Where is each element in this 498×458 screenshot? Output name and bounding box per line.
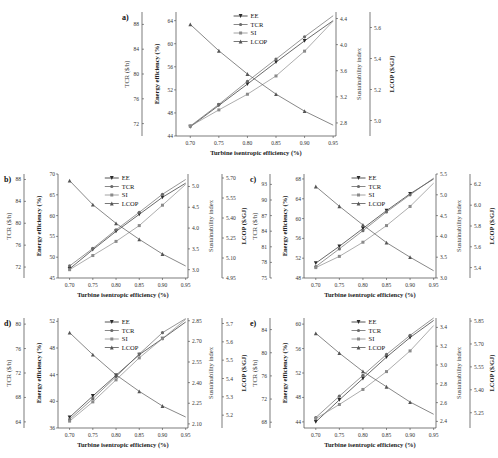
lcop-tick-label: 4.95 [226,275,236,281]
square-marker [314,266,317,269]
si-tick-label: 3.2 [440,343,447,349]
square-marker [138,356,141,359]
lcop-tick-label: 5.10 [226,255,236,261]
legend-label: SI [251,29,257,36]
lcop-tick-label: 5.85 [474,318,484,324]
ee-axis-title: Energy efficiency (%) [281,196,289,257]
x-tick-label: 0.90 [405,432,415,438]
circle-marker [217,103,220,106]
tcr-axis-title: TCR ($/h) [5,213,13,240]
square-marker [91,400,94,403]
legend-label: LCOP [122,344,139,351]
legend-label: TCR [369,183,382,190]
tcr-axis-title: TCR ($/h) [5,360,13,387]
si-tick-label: 5.5 [440,171,447,177]
tcr-tick-label: 88 [16,176,22,182]
ee-tick-label: 56 [296,346,302,352]
lcop-tick-label: 5.6 [226,339,233,345]
lcop-tick-label: 5.2 [226,412,233,418]
x-tick-label: 0.75 [88,432,98,438]
x-tick-label: 0.80 [111,432,121,438]
lcop-axis-title: LCOP ($/GJ) [488,207,496,244]
legend-label: LCOP [251,38,268,45]
square-marker [357,338,360,341]
square-marker [161,337,164,340]
lcop-tick-label: 5.55 [474,364,484,370]
x-tick-label: 0.85 [134,432,144,438]
x-tick-label: 0.70 [65,432,75,438]
legend-label: TCR [122,327,135,334]
square-marker [161,204,164,207]
ee-tick-label: 44 [296,419,302,425]
square-marker [246,93,249,96]
ee-tick-label: 50 [50,254,56,260]
square-marker [115,378,118,381]
si-tick-label: 4.5 [440,213,447,219]
square-marker [409,349,412,352]
circle-marker [91,247,94,250]
square-marker [338,255,341,258]
si-tick-label: 5.0 [440,192,447,198]
tcr-tick-label: 72 [16,370,22,376]
x-tick-label: 0.80 [243,140,253,146]
circle-marker [357,329,360,332]
si-tick-label: 4.4 [340,16,347,22]
si-tick-label: 2.10 [192,421,202,427]
lcop-tick-label: 5.2 [374,87,381,93]
triangle-up-marker [408,255,412,259]
tcr-tick-label: 72 [16,264,22,270]
panel-label: d) [4,319,11,328]
si-tick-label: 2.8 [440,381,447,387]
legend-label: LCOP [122,200,139,207]
si-tick-label: 4.0 [440,233,447,239]
si-tick-label: 2.40 [192,380,202,386]
ee-tick-label: 60 [50,213,56,219]
square-marker [303,50,306,53]
x-tick-label: 0.90 [158,282,168,288]
ee-tick-label: 44 [168,133,174,139]
x-tick-label: 0.75 [335,282,345,288]
si-tick-label: 3.4 [440,324,447,330]
si-tick-label: 2.8 [340,120,347,126]
x-tick-label: 0.95 [429,432,439,438]
tcr-axis-title: TCR ($/h) [251,360,259,387]
x-tick-label: 0.85 [134,282,144,288]
legend-label: TCR [122,183,135,190]
lcop-tick-label: 6.2 [474,181,481,187]
ee-tick-label: 44 [50,372,56,378]
si-tick-label: 4.5 [192,204,199,210]
circle-marker [385,353,388,356]
ee-tick-label: 68 [296,176,302,182]
si-tick-label: 3.6 [340,68,347,74]
panel-label: a) [122,13,129,22]
si-tick-label: 5.0 [192,183,199,189]
ee-tick-label: 60 [296,216,302,222]
ee-tick-label: 48 [50,345,56,351]
square-marker [217,108,220,111]
x-tick-label: 0.80 [111,282,121,288]
legend-label: LCOP [369,200,386,207]
x-tick-label: 0.75 [214,140,224,146]
tcr-axis-title: TCR ($/h) [123,61,131,88]
ee-tick-label: 36 [50,425,56,431]
tcr-tick-label: 80 [16,321,22,327]
circle-marker [110,329,113,332]
legend-label: EE [122,318,130,325]
tcr-tick-label: 80 [262,350,268,356]
lcop-tick-label: 5.5 [226,357,233,363]
legend: EETCRSILCOP [105,174,139,207]
lcop-tick-label: 5.40 [226,215,236,221]
circle-marker [274,58,277,61]
square-marker [361,388,364,391]
circle-marker [114,228,117,231]
square-marker [385,224,388,227]
circle-marker [385,210,388,213]
tcr-axis-title: TCR ($/h) [251,213,259,240]
x-tick-label: 0.90 [300,140,310,146]
si-axis-title: Sustainability index [455,199,462,252]
triangle-up-marker [188,23,192,27]
x-tick-label: 0.95 [181,432,191,438]
lcop-tick-label: 5.70 [226,175,236,181]
tcr-tick-label: 68 [16,394,22,400]
legend-label: EE [369,318,377,325]
